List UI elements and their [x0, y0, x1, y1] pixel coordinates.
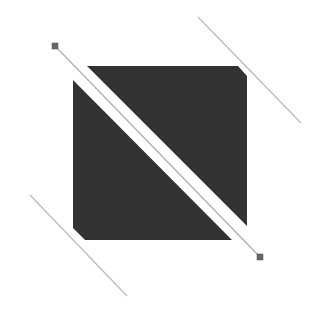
diagonal-split-square-canvas: [0, 0, 327, 322]
handle-end-icon[interactable]: [257, 254, 263, 260]
background: [0, 0, 327, 322]
handle-start-icon[interactable]: [52, 43, 58, 49]
